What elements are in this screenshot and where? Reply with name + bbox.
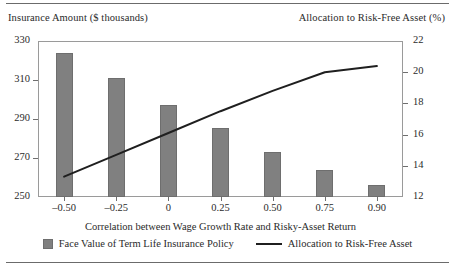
x-axis-tick [221,197,222,201]
y-axis-label-right: 20 [413,66,424,77]
x-axis-label: 0.90 [368,202,386,213]
legend-item-line: Allocation to Risk-Free Asset [256,238,413,249]
legend-item-bar: Face Value of Term Life Insurance Policy [43,238,234,249]
y-axis-label-right: 14 [413,160,424,171]
top-divider [6,3,449,4]
chart-legend: Face Value of Term Life Insurance Policy… [0,238,455,249]
x-axis-label: –0.25 [104,202,128,213]
line-series-layer [38,41,403,197]
y-axis-tick-left [33,158,38,159]
y-axis-label-left: 270 [6,152,30,163]
y-axis-tick-right [403,103,408,104]
legend-line-label: Allocation to Risk-Free Asset [288,238,413,249]
x-axis-tick [377,197,378,201]
legend-bar-swatch-icon [43,239,53,249]
y-axis-tick-right [403,72,408,73]
x-axis-label: –0.50 [52,202,76,213]
x-axis-tick [64,197,65,201]
x-axis-label: 0.75 [316,202,334,213]
y-axis-tick-right [403,135,408,136]
right-axis-title: Allocation to Risk-Free Asset (%) [299,12,445,23]
y-axis-tick-left [33,119,38,120]
y-axis-label-right: 22 [413,35,424,46]
plot-area: Correlation between Wage Growth Rate and… [38,41,403,197]
x-axis-title: Correlation between Wage Growth Rate and… [38,221,403,232]
legend-bar-label: Face Value of Term Life Insurance Policy [59,238,234,249]
y-axis-tick-right [403,166,408,167]
x-axis-tick [168,197,169,201]
left-axis-title: Insurance Amount ($ thousands) [8,12,148,23]
y-axis-label-right: 12 [413,191,424,202]
y-axis-tick-left [33,80,38,81]
y-axis-label-left: 290 [6,113,30,124]
x-axis-label: 0.50 [263,202,281,213]
chart-figure: Insurance Amount ($ thousands) Allocatio… [0,0,455,266]
y-axis-label-left: 310 [6,74,30,85]
x-axis-label: 0 [166,202,171,213]
x-axis-label: 0.25 [211,202,229,213]
legend-line-swatch-icon [256,243,282,245]
bottom-divider [6,262,449,263]
x-axis-tick [116,197,117,201]
line-series [64,66,377,177]
y-axis-label-right: 18 [413,97,424,108]
y-axis-label-left: 250 [6,191,30,202]
x-axis-tick [325,197,326,201]
y-axis-label-right: 16 [413,129,424,140]
x-axis-tick [273,197,274,201]
y-axis-label-left: 330 [6,35,30,46]
